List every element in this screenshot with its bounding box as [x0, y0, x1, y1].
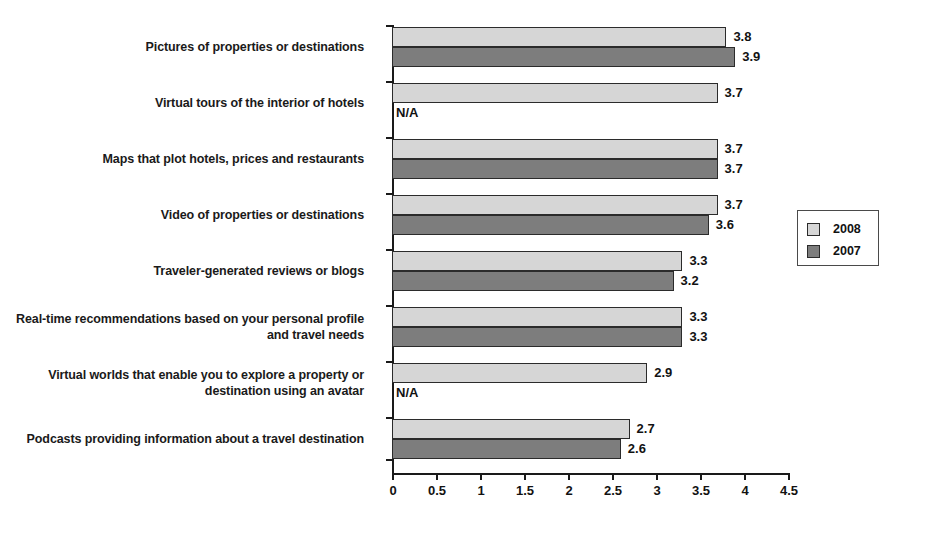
x-tick-mark: [656, 473, 658, 480]
x-tick-mark: [436, 473, 438, 480]
bar-value-label: 3.3: [689, 327, 707, 347]
x-tick-mark: [744, 473, 746, 480]
x-tick-mark: [568, 473, 570, 480]
bar-value-label: 2.7: [637, 419, 655, 439]
bar-2008: [392, 251, 682, 271]
bar-group: 3.33.2: [392, 251, 788, 291]
bar-value-label: 3.6: [716, 215, 734, 235]
bar-value-label: 3.3: [689, 307, 707, 327]
x-tick-mark: [700, 473, 702, 480]
x-tick-label: 2.5: [604, 483, 622, 498]
category-label: Podcasts providing information about a t…: [4, 431, 364, 447]
bar-2007: [392, 159, 718, 179]
category-label: Video of properties or destinations: [4, 207, 364, 223]
bar-2008: [392, 195, 718, 215]
bar-2008: [392, 83, 718, 103]
plot-area: 3.83.93.7N/A3.73.73.73.63.33.23.33.32.9N…: [392, 25, 788, 473]
x-tick-label: 0: [389, 483, 396, 498]
legend-label: 2008: [833, 221, 861, 237]
x-tick-mark: [480, 473, 482, 480]
bar-2008: [392, 27, 726, 47]
bar-value-label: 3.7: [725, 139, 743, 159]
bar-group: 2.72.6: [392, 419, 788, 459]
x-axis-ticks: 00.511.522.533.544.5: [392, 473, 792, 513]
bar-2007: [392, 327, 682, 347]
bar-value-label: 3.8: [733, 27, 751, 47]
bar-group: 2.9N/A: [392, 363, 788, 403]
bar-value-label: 3.7: [725, 83, 743, 103]
category-label: Pictures of properties or destinations: [4, 39, 364, 55]
bar-value-label: 3.9: [742, 47, 760, 67]
x-tick-label: 1.5: [516, 483, 534, 498]
chart-legend: 20082007: [797, 210, 879, 266]
bar-2007: [392, 271, 674, 291]
bar-group: 3.73.7: [392, 139, 788, 179]
x-tick-label: 4.5: [780, 483, 798, 498]
x-tick-mark: [788, 473, 790, 480]
category-tick: [386, 459, 392, 461]
category-label: Traveler-generated reviews or blogs: [4, 263, 364, 279]
category-label: Virtual tours of the interior of hotels: [4, 95, 364, 111]
legend-swatch-icon: [807, 245, 820, 258]
bar-value-label: 3.2: [681, 271, 699, 291]
x-tick-label: 0.5: [428, 483, 446, 498]
bar-2008: [392, 139, 718, 159]
na-label: N/A: [396, 103, 418, 123]
bar-2008: [392, 307, 682, 327]
x-tick-label: 2: [565, 483, 572, 498]
bar-2007: [392, 439, 621, 459]
chart-page: Pictures of properties or destinationsVi…: [0, 0, 925, 533]
legend-swatch-icon: [807, 223, 820, 236]
category-label: Maps that plot hotels, prices and restau…: [4, 151, 364, 167]
x-tick-label: 3.5: [692, 483, 710, 498]
bar-2007: [392, 215, 709, 235]
bar-value-label: 2.9: [654, 363, 672, 383]
x-tick-mark: [524, 473, 526, 480]
bar-group: 3.33.3: [392, 307, 788, 347]
bar-group: 3.7N/A: [392, 83, 788, 123]
bar-2008: [392, 419, 630, 439]
bar-2007: [392, 47, 735, 67]
bar-value-label: 3.3: [689, 251, 707, 271]
legend-label: 2007: [833, 243, 861, 259]
x-tick-mark: [612, 473, 614, 480]
category-axis-labels: Pictures of properties or destinationsVi…: [0, 25, 378, 473]
bar-value-label: 3.7: [725, 159, 743, 179]
bar-group: 3.73.6: [392, 195, 788, 235]
x-tick-label: 3: [653, 483, 660, 498]
x-tick-mark: [392, 473, 394, 480]
category-label: Real-time recommendations based on your …: [4, 311, 364, 343]
x-tick-label: 4: [741, 483, 748, 498]
bar-value-label: 3.7: [725, 195, 743, 215]
bar-2008: [392, 363, 647, 383]
na-label: N/A: [396, 383, 418, 403]
bar-group: 3.83.9: [392, 27, 788, 67]
x-tick-label: 1: [477, 483, 484, 498]
bar-value-label: 2.6: [628, 439, 646, 459]
category-label: Virtual worlds that enable you to explor…: [4, 367, 364, 399]
